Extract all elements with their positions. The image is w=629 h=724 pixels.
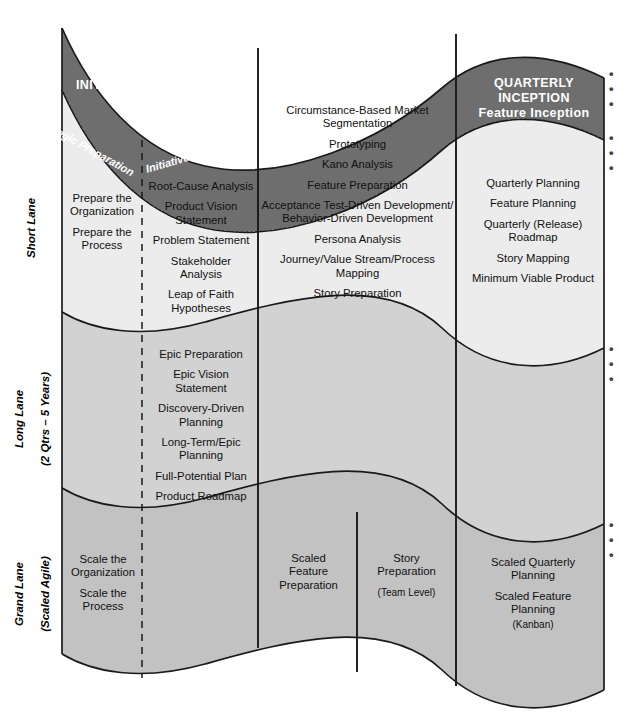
lane-label-long-sub: (2 Qtrs – 5 Years): [39, 372, 51, 466]
cell-item: Epic Vision Statement: [144, 368, 258, 395]
cell-item: Stakeholder Analysis: [144, 255, 258, 282]
cell-grand-seeding-right: Story Preparation (Team Level): [358, 552, 455, 599]
cell-item: Scaled Feature Planning: [458, 590, 608, 617]
cell-item: Problem Statement: [144, 234, 258, 247]
cell-item-sub: (Team Level): [358, 586, 455, 599]
cell-item: Root-Cause Analysis: [144, 180, 258, 193]
cell-item: Acceptance Test-Driven Development/ Beha…: [259, 199, 456, 226]
cell-item-sub: (Kanban): [458, 618, 608, 631]
cell-item: Epic Preparation: [144, 348, 258, 361]
lane-label-short-text: Short Lane: [25, 198, 37, 258]
cell-short-seeding: Circumstance-Based Market Segmentation P…: [259, 104, 456, 300]
cell-grand-strategic: Scale the Organization Scale the Process: [62, 553, 144, 614]
continuation-dots-4: • • •: [609, 517, 629, 562]
continuation-dots-2: • • •: [609, 130, 629, 175]
lane-label-grand-sub: (Scaled Agile): [39, 556, 51, 632]
cell-item: Feature Planning: [458, 197, 608, 210]
cell-item: Story Mapping: [458, 252, 608, 265]
cell-grand-quarterly: Scaled Quarterly Planning Scaled Feature…: [458, 556, 608, 631]
cell-long-initiative: Epic Preparation Epic Vision Statement D…: [144, 348, 258, 504]
phase-title-seeding-text: SEEDING THE BACKLOG: [281, 55, 440, 69]
cell-item: Prepare the Organization: [62, 192, 142, 219]
continuation-dots-1: • • •: [609, 66, 629, 111]
continuation-dots-4-text: • • •: [609, 517, 616, 562]
phase-title-quarterly: QUARTERLY INCEPTION Feature Inception: [460, 76, 608, 121]
cell-item: Leap of Faith Hypotheses: [144, 288, 258, 315]
cell-item: Circumstance-Based Market Segmentation: [259, 104, 456, 131]
cell-item: Journey/Value Stream/Process Mapping: [259, 253, 456, 280]
cell-item: Prototyping: [259, 138, 456, 151]
lane-label-long-text: Long Lane: [13, 390, 25, 448]
cell-short-quarterly: Quarterly Planning Feature Planning Quar…: [458, 177, 608, 285]
cell-item: Persona Analysis: [259, 233, 456, 246]
diagram-canvas: Short Lane Long Lane (2 Qtrs – 5 Years) …: [0, 0, 629, 724]
cell-item: Story Preparation: [259, 287, 456, 300]
phase-title-quarterly-text: QUARTERLY INCEPTION: [494, 76, 574, 105]
cell-item: Scale the Organization: [62, 553, 144, 580]
cell-item: Discovery-Driven Planning: [144, 402, 258, 429]
lane-label-short: Short Lane: [12, 188, 38, 268]
continuation-dots-1-text: • • •: [609, 66, 616, 111]
cell-item: Scaled Quarterly Planning: [458, 556, 608, 583]
cell-item: Story Preparation: [358, 552, 455, 579]
cell-item: Feature Preparation: [259, 179, 456, 192]
cell-item: Prepare the Process: [62, 226, 142, 253]
cell-item: Minimum Viable Product: [458, 272, 608, 285]
lane-label-grand-text: Grand Lane: [13, 562, 25, 626]
cell-item: Quarterly (Release) Roadmap: [458, 218, 608, 245]
cell-item: Quarterly Planning: [458, 177, 608, 190]
cell-short-initiative: Root-Cause Analysis Product Vision State…: [144, 180, 258, 315]
cell-item: Scaled Feature Preparation: [260, 552, 357, 592]
cell-item: Long-Term/Epic Planning: [144, 436, 258, 463]
cell-grand-seeding-left: Scaled Feature Preparation: [260, 552, 357, 592]
phase-title-initiation: INITIATION AND PLANNING: [70, 78, 255, 93]
cell-item: Product Roadmap: [144, 490, 258, 503]
continuation-dots-3: • • •: [609, 341, 629, 386]
cell-item: Product Vision Statement: [144, 200, 258, 227]
cell-item: Scale the Process: [62, 587, 144, 614]
continuation-dots-3-text: • • •: [609, 341, 616, 386]
cell-item: Kano Analysis: [259, 158, 456, 171]
lane-label-grand: Grand Lane (Scaled Agile): [0, 546, 52, 642]
phase-title-initiation-text: INITIATION AND PLANNING: [76, 78, 249, 92]
lane-label-long: Long Lane (2 Qtrs – 5 Years): [0, 369, 52, 469]
continuation-dots-2-text: • • •: [609, 130, 616, 175]
cell-short-strategic: Prepare the Organization Prepare the Pro…: [62, 192, 142, 253]
phase-title-quarterly-sub: Feature Inception: [479, 106, 590, 120]
phase-title-seeding: SEEDING THE BACKLOG: [264, 55, 456, 70]
cell-item: Full-Potential Plan: [144, 470, 258, 483]
